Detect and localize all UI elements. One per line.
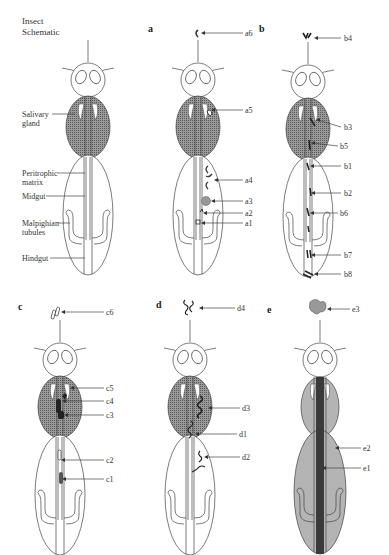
annotation-d4: d4 [237,304,245,313]
schematic-panel: Insect Schematic Salivary gland Peritrop… [22,16,114,275]
panel-e-label: e [267,304,272,315]
annotation-d1: d1 [239,430,247,439]
annotation-a5: a5 [245,106,253,115]
annotation-b8: b8 [344,270,352,279]
panel-a-label: a [148,23,153,34]
insect-schematic-figure: Insect Schematic Salivary gland Peritrop… [0,0,389,555]
annotation-b7: b7 [344,251,352,260]
annotation-a6: a6 [245,29,253,38]
annotation-a3: a3 [245,197,253,206]
annotation-b5: b5 [340,142,348,151]
annotation-b2: b2 [344,189,352,198]
label-peritrophic-2: matrix [22,178,43,187]
panel-e: e e3 e2 e1 [267,300,371,555]
insect-schematic [62,40,114,275]
annotation-e1: e1 [363,464,371,473]
annotation-e3: e3 [352,305,360,314]
label-peritrophic-1: Peritrophic [22,169,58,178]
label-malpighian-1: Malpighian [22,219,59,228]
annotation-b1: b1 [344,162,352,171]
annotation-d2: d2 [242,453,250,462]
annotation-a4: a4 [245,176,253,185]
label-malpighian-2: tubules [22,228,45,237]
annotation-b4: b4 [344,34,352,43]
panel-c-label: c [18,301,23,312]
annotation-b6: b6 [340,209,348,218]
bacteria-icon [303,33,311,38]
annotation-d3: d3 [242,404,250,413]
annotation-c6: c6 [106,308,114,317]
panel-b: b b4 [259,23,352,279]
label-midgut: Midgut [22,192,46,201]
panel-b-label: b [259,23,265,34]
annotation-c2: c2 [106,456,114,465]
crescent-icon [196,30,198,37]
spore-icon [202,197,211,206]
annotation-b3: b3 [344,123,352,132]
annotation-c4: c4 [106,397,114,406]
annotation-a1: a1 [245,219,253,228]
annotation-c3: c3 [106,411,114,420]
panel-c: c c6 c5 c4 c3 c2 c1 [18,301,114,555]
panel-d-label: d [156,299,162,310]
label-hindgut: Hindgut [22,254,49,263]
panel-a: a a6 a5 a4 a3 a2 a1 [148,23,253,275]
annotation-e2: e2 [363,444,371,453]
label-salivary-gland-1: Salivary [22,110,49,119]
fungus-icon [309,300,326,315]
title-line-2: Schematic [22,27,60,37]
panel-d: d d4 d3 d1 d2 [156,299,250,555]
title-line-1: Insect [22,16,44,26]
annotation-c1: c1 [106,475,114,484]
annotation-c5: c5 [106,384,114,393]
annotation-a2: a2 [245,209,253,218]
label-salivary-gland-2: gland [22,119,40,128]
